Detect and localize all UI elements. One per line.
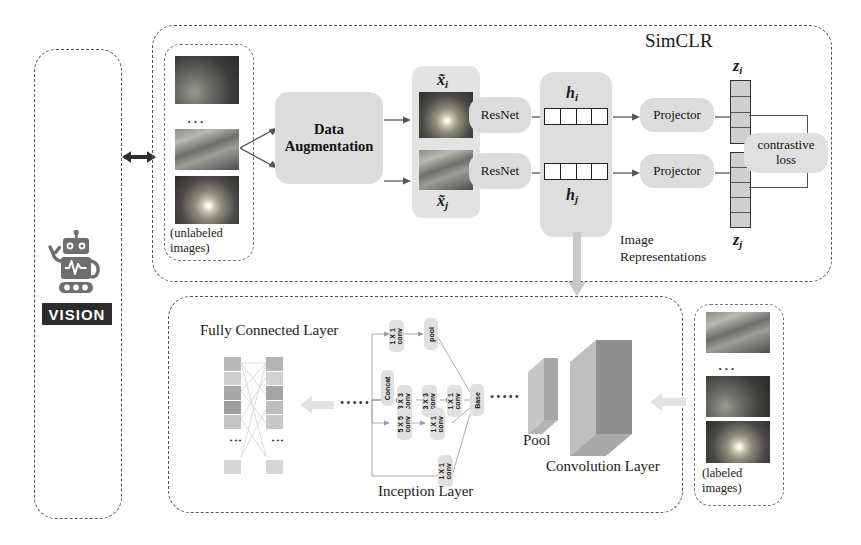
h-i-cell (561, 109, 577, 124)
resnet-bottom-label: ResNet (481, 164, 519, 179)
agent-pipeline-arrow (122, 148, 156, 166)
resnet-box-bottom[interactable]: ResNet (469, 153, 531, 189)
fc-connections (224, 357, 283, 469)
image-representations-caption-line1: Image (620, 232, 654, 248)
fc-column-1-vdots: ⋮ (228, 434, 244, 448)
z-j-cell (731, 168, 750, 183)
robot-icon (46, 230, 108, 300)
augmented-view-i (419, 92, 473, 138)
downstream-ellipsis-right: ••••• (490, 390, 521, 405)
labeled-caption-line2: images) (702, 481, 742, 496)
inception-block-base: Base (470, 384, 484, 416)
pool-label: Pool (523, 432, 551, 449)
z-i-loss-connector (749, 115, 808, 116)
unlabeled-ellipsis: ... (187, 108, 206, 128)
vision-label: VISION (42, 303, 112, 325)
inception-conv-3x3-a-label: 3 X 3conv (397, 393, 412, 409)
image-representations-caption-line2: Representations (620, 249, 706, 265)
inception-pool-label: pool (428, 327, 435, 342)
z-j-loss-connector (749, 187, 808, 188)
data-augmentation-line1: Data (314, 121, 344, 138)
unlabeled-caption-line2: images) (170, 241, 210, 256)
view-j-sub: j (445, 199, 448, 211)
inception-conv-1x1-d-label: 1 X 1conv (438, 463, 453, 479)
arrow-h-i-to-projector (613, 109, 641, 121)
unlabeled-caption-line1: (unlabeled (170, 226, 223, 241)
fc-layer-label: Fully Connected Layer (200, 322, 338, 339)
vision-label-text: VISION (49, 306, 106, 323)
fc-node-last-1 (224, 460, 241, 474)
resnet-box-top[interactable]: ResNet (469, 97, 531, 133)
h-i-label: hi (566, 84, 578, 103)
z-j-sub: j (739, 238, 742, 250)
fc-column-2-vdots: ⋮ (270, 434, 286, 448)
z-j-cell (731, 198, 750, 213)
unlabeled-thumb-3 (175, 176, 239, 224)
z-j-label: zj (733, 231, 742, 250)
inception-conv-5x5-label: 5 X 5conv (397, 416, 412, 432)
h-j-vector (544, 163, 608, 180)
inception-conv-1x1-c-label: 1 X 1conv (430, 416, 445, 432)
view-i-sub: i (445, 78, 448, 90)
arrow-h-j-to-projector (613, 165, 641, 177)
labeled-ellipsis: ... (718, 355, 737, 375)
inception-conv-3x3-b-label: 3 X 3conv (422, 393, 437, 409)
convolution-slab (570, 340, 646, 458)
h-j-cell (592, 164, 607, 179)
data-augmentation-line2: Augmentation (285, 138, 374, 155)
inception-block-concat: Concat (381, 370, 394, 406)
inception-conv-1x1-b-label: 1 X 1conv (447, 393, 462, 409)
inception-base-label: Base (474, 392, 481, 409)
z-i-cell (731, 81, 750, 97)
z-j-cell (731, 183, 750, 198)
inception-block-conv-1x1-c: 1 X 1conv (430, 408, 445, 440)
arrow-inception-to-fc (298, 395, 336, 415)
resnet-top-label: ResNet (481, 108, 519, 123)
simclr-title: SimCLR (645, 30, 713, 52)
z-j-cell (731, 213, 750, 227)
z-i-vector (730, 80, 751, 144)
inception-conv-1x1-a-label: 1 X 1conv (389, 328, 404, 344)
z-i-sub: i (739, 64, 742, 76)
z-i-cell (731, 113, 750, 129)
h-j-label: hj (566, 186, 578, 205)
h-i-sub: i (575, 91, 578, 103)
z-i-label: zi (733, 57, 742, 76)
contrastive-loss-box: contrastive loss (744, 133, 828, 173)
contrastive-loss-line1: contrastive (757, 138, 814, 153)
data-augmentation-box[interactable]: Data Augmentation (275, 92, 383, 184)
h-i-cell (577, 109, 593, 124)
unlabeled-thumb-2 (175, 129, 239, 170)
arrow-aug-to-view-j (384, 173, 412, 185)
z-i-cell (731, 97, 750, 113)
unlabeled-thumb-1 (175, 56, 239, 104)
h-j-cell (545, 164, 561, 179)
h-i-cell (545, 109, 561, 124)
projector-bottom-label: Projector (653, 164, 701, 179)
h-i-vector (544, 108, 608, 125)
inception-concat-label: Concat (384, 376, 391, 400)
arrow-images-to-aug-bottom (240, 147, 280, 171)
projector-box-bottom[interactable]: Projector (640, 154, 714, 188)
inception-block-conv-1x1-a: 1 X 1conv (389, 320, 404, 352)
fc-node-last-2 (266, 460, 283, 474)
view-i-label: x̃i (437, 71, 448, 90)
arrow-labeled-to-conv (648, 392, 688, 412)
h-j-cell (577, 164, 593, 179)
h-j-cell (561, 164, 577, 179)
labeled-thumb-1 (706, 312, 770, 353)
view-j-label: x̃j (437, 192, 448, 211)
h-i-cell (592, 109, 607, 124)
augmented-view-j (419, 150, 473, 190)
convolution-layer-label: Convolution Layer (546, 458, 660, 475)
inception-block-conv-5x5: 5 X 5conv (397, 408, 412, 440)
projector-box-top[interactable]: Projector (640, 98, 714, 132)
contrastive-loss-line2: loss (776, 153, 796, 168)
labeled-caption-line1: (labeled (702, 466, 742, 481)
inception-layer-label: Inception Layer (378, 483, 473, 500)
arrow-aug-to-view-i (384, 112, 412, 124)
inception-block-pool: pool (424, 318, 438, 350)
h-j-sub: j (575, 193, 578, 205)
inception-block-conv-1x1-b: 1 X 1conv (447, 385, 462, 417)
labeled-thumb-3 (706, 421, 770, 463)
